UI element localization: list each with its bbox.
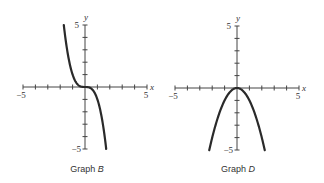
y-min-label: −5	[223, 145, 233, 155]
graphs-figure: −55x5−5y−55x5−5y	[0, 0, 324, 183]
x-axis-label: x	[301, 83, 306, 93]
x-min-label: −5	[168, 91, 178, 101]
x-max-label: 5	[144, 90, 149, 100]
y-min-label: −5	[71, 144, 81, 154]
y-max-label: 5	[227, 21, 232, 31]
caption-prefix: Graph	[70, 164, 95, 174]
y-max-label: 5	[75, 20, 80, 30]
graph-d: −55x5−5y	[168, 13, 306, 155]
caption-prefix: Graph	[221, 164, 246, 174]
graph-b: −55x5−5y	[16, 12, 154, 154]
x-min-label: −5	[16, 90, 26, 100]
caption-letter: B	[98, 164, 104, 174]
graph-d-caption: Graph D	[221, 164, 255, 174]
graph-b-caption: Graph B	[70, 164, 104, 174]
y-axis-label: y	[83, 12, 88, 22]
x-axis-label: x	[149, 82, 154, 92]
caption-letter: D	[249, 164, 256, 174]
x-max-label: 5	[296, 91, 301, 101]
y-axis-label: y	[235, 13, 240, 23]
